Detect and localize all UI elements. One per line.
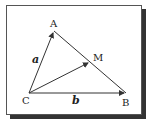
- segment-ab: [54, 31, 126, 93]
- vector-cm: [29, 63, 88, 93]
- label-b-point: B: [122, 97, 129, 108]
- label-c-point: C: [22, 95, 30, 106]
- label-a-point: A: [49, 18, 58, 29]
- triangle-diagram: A B C M a b: [0, 0, 156, 127]
- label-vector-a: a: [32, 53, 39, 66]
- label-m-point: M: [93, 52, 103, 63]
- label-vector-b: b: [72, 94, 80, 107]
